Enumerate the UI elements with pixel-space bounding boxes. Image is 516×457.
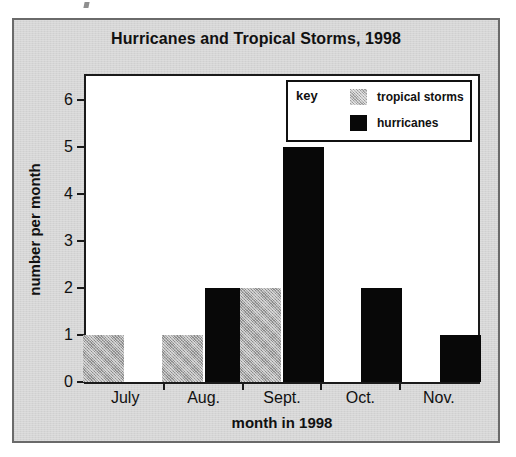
bar-nov-hurricanes — [440, 335, 481, 382]
x-axis-tick-label: Oct. — [346, 389, 375, 407]
legend-label-tropical-storms: tropical storms — [377, 90, 464, 104]
legend-swatch-hurricanes — [350, 115, 367, 131]
y-axis-tick-label: 0 — [64, 373, 73, 391]
bar-aug-tropical-storms — [162, 335, 203, 382]
chart-figure-frame: Hurricanes and Tropical Storms, 1998 num… — [12, 18, 500, 443]
y-axis-tick-label: 3 — [64, 232, 73, 250]
y-axis-tick — [77, 287, 86, 289]
y-axis-tick — [77, 240, 86, 242]
y-axis-tick-label: 2 — [64, 279, 73, 297]
legend-item-hurricanes: hurricanes — [350, 115, 438, 131]
legend-title: key — [296, 88, 318, 103]
x-axis-tick-label: Aug. — [187, 389, 220, 407]
legend-swatch-tropical-storms — [350, 89, 367, 105]
y-axis-title-label: number per month — [26, 163, 43, 296]
scan-artifact — [83, 2, 89, 8]
x-axis-title: month in 1998 — [84, 414, 480, 431]
y-axis-tick-label: 5 — [64, 138, 73, 156]
bar-sept-tropical-storms — [240, 288, 281, 382]
x-axis-tick — [163, 382, 165, 390]
bar-oct-hurricanes — [361, 288, 402, 382]
x-axis-tick-label: July — [111, 389, 139, 407]
bar-july-tropical-storms — [83, 335, 124, 382]
x-axis-tick-label: Sept. — [263, 389, 300, 407]
y-axis-tick-label: 6 — [64, 91, 73, 109]
x-axis-tick-label: Nov. — [423, 389, 455, 407]
x-axis-tick — [242, 382, 244, 390]
chart-title: Hurricanes and Tropical Storms, 1998 — [14, 30, 498, 48]
y-axis-tick — [77, 146, 86, 148]
x-axis-tick — [320, 382, 322, 390]
bar-sept-hurricanes — [283, 147, 324, 382]
y-axis-tick-label: 4 — [64, 185, 73, 203]
legend-box: key tropical storms hurricanes — [286, 80, 472, 142]
legend-label-hurricanes: hurricanes — [377, 116, 438, 130]
y-axis-tick — [77, 193, 86, 195]
y-axis-tick — [77, 99, 86, 101]
x-axis-tick — [399, 382, 401, 390]
legend-item-tropical-storms: tropical storms — [350, 89, 464, 105]
y-axis-tick-label: 1 — [64, 326, 73, 344]
plot-area: 0123456 JulyAug.Sept.Oct.Nov. key tropic… — [84, 74, 480, 384]
y-axis-title: number per month — [24, 74, 44, 384]
